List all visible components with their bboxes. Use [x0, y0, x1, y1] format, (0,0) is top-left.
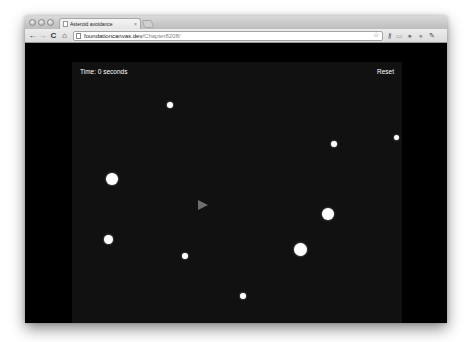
address-bar[interactable]: foundationcanvas.dev /Chapter8208/ ☆ [73, 31, 383, 41]
asteroid [104, 235, 113, 244]
key-icon[interactable]: ⚷ [386, 32, 393, 39]
zoom-window-button[interactable] [47, 19, 54, 26]
asteroid [182, 253, 188, 259]
asteroid [294, 243, 307, 256]
new-tab-button[interactable] [142, 20, 155, 28]
browser-tab[interactable]: Asteroid avoidance × [59, 18, 141, 29]
bookmark-star-icon[interactable]: ☆ [373, 31, 379, 39]
wrench-icon[interactable]: ✎ [428, 32, 435, 39]
asteroid [322, 208, 334, 220]
browser-toolbar: ← → C ⌂ foundationcanvas.dev /Chapter820… [25, 29, 447, 43]
asteroid [331, 141, 337, 147]
asteroid [167, 102, 173, 108]
page-icon [76, 33, 81, 39]
url-path: /Chapter8208/ [142, 33, 180, 39]
favicon-icon [63, 21, 68, 27]
page-action-icon[interactable]: ▭ [396, 32, 403, 39]
title-bar: Asteroid avoidance × [25, 16, 447, 29]
reset-button[interactable]: Reset [377, 68, 394, 75]
minimize-window-button[interactable] [38, 19, 45, 26]
tab-close-icon[interactable]: × [134, 21, 137, 27]
timer-label: Time: 0 seconds [80, 68, 127, 75]
reload-button[interactable]: C [49, 31, 58, 41]
asteroid [240, 293, 246, 299]
game-canvas[interactable]: Time: 0 seconds Reset [72, 62, 402, 323]
close-window-button[interactable] [29, 19, 36, 26]
extension-icon[interactable]: ● [406, 32, 413, 39]
page-content: Time: 0 seconds Reset [25, 43, 447, 323]
player-ship [198, 200, 208, 210]
browser-window: Asteroid avoidance × ← → C ⌂ foundationc… [25, 16, 447, 323]
asteroid [394, 135, 399, 140]
asteroid [106, 173, 118, 185]
extension-icon-2[interactable]: ● [417, 32, 424, 39]
back-button[interactable]: ← [28, 31, 37, 41]
url-host: foundationcanvas.dev [84, 33, 142, 39]
home-button[interactable]: ⌂ [60, 31, 69, 41]
tab-title: Asteroid avoidance [70, 21, 134, 27]
forward-button[interactable]: → [38, 31, 47, 41]
